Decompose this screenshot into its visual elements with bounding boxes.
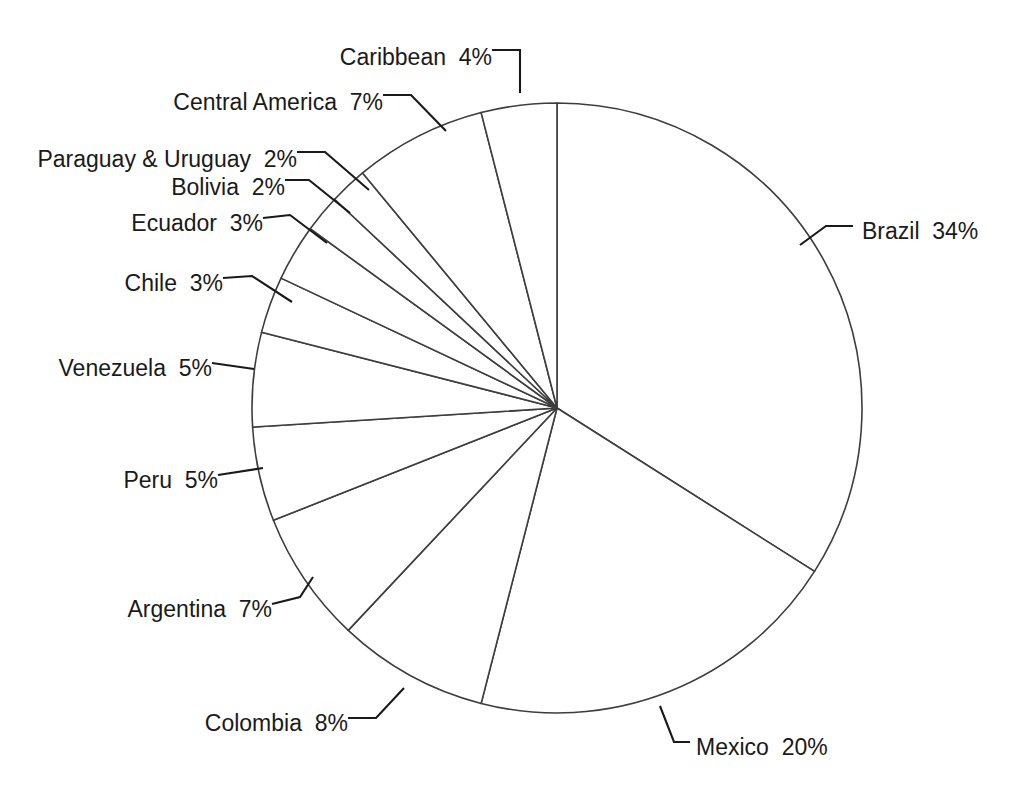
pie-label-brazil: Brazil 34% [862, 220, 978, 243]
pie-label-argentina: Argentina 7% [0, 598, 272, 621]
pie-chart-figure: Caribbean 4% Central America 7% Paraguay… [0, 0, 1033, 799]
pie-label-paraguay-uruguay: Paraguay & Uruguay 2% [0, 148, 297, 171]
pie-label-ecuador: Ecuador 3% [0, 212, 263, 235]
leader-line-peru [218, 468, 263, 475]
pie-label-bolivia: Bolivia 2% [0, 176, 285, 199]
pie-label-mexico: Mexico 20% [696, 736, 828, 759]
pie-slices-group [252, 103, 862, 713]
pie-label-venezuela: Venezuela 5% [0, 357, 212, 380]
pie-label-chile: Chile 3% [0, 272, 223, 295]
leader-line-caribbean [492, 50, 520, 93]
leader-line-central-america [383, 95, 446, 131]
leader-line-colombia [348, 688, 404, 718]
pie-label-colombia: Colombia 8% [50, 712, 348, 735]
pie-chart-svg [0, 0, 1033, 799]
pie-label-central-america: Central America 7% [80, 91, 383, 114]
pie-label-peru: Peru 5% [0, 469, 218, 492]
leader-line-venezuela [212, 363, 254, 369]
pie-label-caribbean: Caribbean 4% [190, 46, 492, 69]
leader-line-mexico [660, 706, 690, 742]
